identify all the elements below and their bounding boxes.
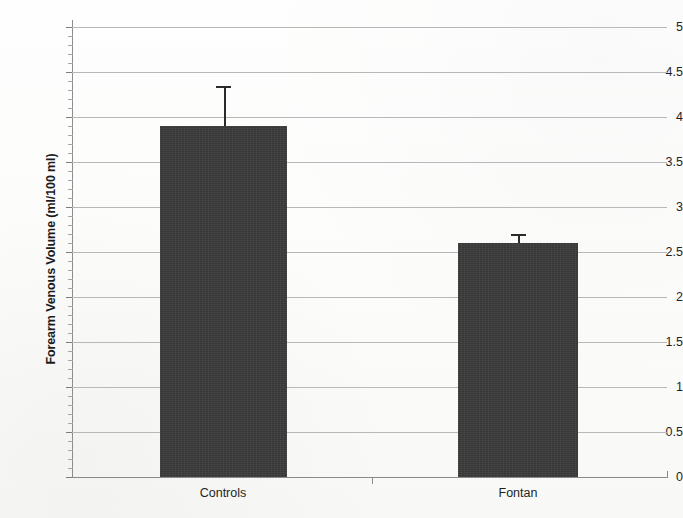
plot-area (72, 27, 667, 477)
bar-fontan (458, 243, 578, 477)
y-axis-title: Forearm Venous Volume (ml/100 ml) (34, 0, 68, 518)
error-bar-cap (216, 86, 231, 88)
gridline (72, 72, 667, 73)
gridline (72, 477, 667, 478)
x-axis-category-divider-tick (372, 477, 373, 484)
chart-figure: Forearm Venous Volume (ml/100 ml) 00.511… (0, 0, 683, 518)
bar-controls (160, 126, 287, 477)
gridline (72, 27, 667, 28)
error-bar-stem (224, 86, 226, 126)
x-axis-label-controls: Controls (163, 487, 283, 500)
gridline (72, 117, 667, 118)
error-bar-cap (511, 234, 526, 236)
x-axis-label-fontan: Fontan (458, 487, 578, 500)
